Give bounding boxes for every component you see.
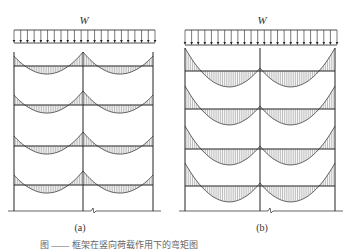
load-arrow-head-icon [250, 42, 253, 45]
load-arrow-head-icon [303, 42, 306, 45]
load-arrow-head-icon [336, 42, 339, 45]
load-arrow-head-icon [184, 42, 187, 45]
load-arrow-head-icon [204, 42, 207, 45]
load-arrow-head-icon [19, 40, 22, 43]
load-arrow-head-icon [263, 42, 266, 45]
load-arrow-head-icon [26, 40, 29, 43]
load-arrow-head-icon [127, 40, 130, 43]
load-arrow-head-icon [93, 40, 96, 43]
load-arrow-head-icon [217, 42, 220, 45]
load-arrow-head-icon [270, 42, 273, 45]
frame-panel-b [179, 30, 343, 213]
ground-line [8, 208, 161, 213]
load-arrow-head-icon [289, 42, 292, 45]
load-arrow-head-icon [197, 42, 200, 45]
load-arrow-head-icon [87, 40, 90, 43]
load-arrow-head-icon [329, 42, 332, 45]
load-arrow-head-icon [66, 40, 69, 43]
ground-line [179, 208, 343, 213]
load-arrow-head-icon [147, 40, 150, 43]
load-arrow-head-icon [134, 40, 137, 43]
load-arrow-head-icon [316, 42, 319, 45]
load-arrow-head-icon [113, 40, 116, 43]
load-arrow-head-icon [256, 42, 259, 45]
load-arrow-head-icon [322, 42, 325, 45]
load-arrow-head-icon [73, 40, 76, 43]
figure-caption: 图 —— 框架在竖向荷载作用下的弯矩图 [40, 238, 198, 251]
load-arrow-head-icon [190, 42, 193, 45]
load-arrow-head-icon [53, 40, 56, 43]
load-arrow-head-icon [276, 42, 279, 45]
frame-panel-a [8, 30, 161, 213]
load-arrow-head-icon [120, 40, 123, 43]
load-arrow-head-icon [13, 40, 16, 43]
load-arrow-head-icon [309, 42, 312, 45]
load-arrow-head-icon [210, 42, 213, 45]
load-arrow-head-icon [283, 42, 286, 45]
load-arrow-head-icon [223, 42, 226, 45]
load-arrow-head-icon [107, 40, 110, 43]
load-arrow-head-icon [46, 40, 49, 43]
load-arrow-head-icon [40, 40, 43, 43]
load-label-b: W [257, 14, 266, 26]
load-arrow-head-icon [80, 40, 83, 43]
load-arrow-head-icon [237, 42, 240, 45]
load-label-a: W [79, 14, 88, 26]
load-arrow-head-icon [154, 40, 157, 43]
load-arrow-head-icon [33, 40, 36, 43]
load-arrow-head-icon [243, 42, 246, 45]
load-arrow-head-icon [296, 42, 299, 45]
load-arrow-head-icon [140, 40, 143, 43]
load-arrow-head-icon [100, 40, 103, 43]
load-arrow-head-icon [230, 42, 233, 45]
load-arrow-head-icon [60, 40, 63, 43]
panel-label-a: (a) [74, 222, 85, 233]
panel-label-b: (b) [256, 222, 268, 233]
